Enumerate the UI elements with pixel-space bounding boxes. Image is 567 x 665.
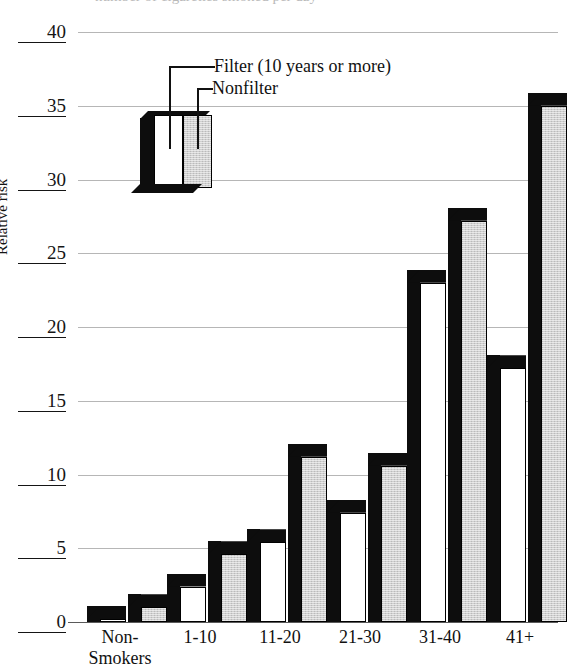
x-tick-label: 31-40	[395, 627, 485, 648]
bar-face-nonfilter	[301, 457, 327, 622]
bar-depth-filter	[327, 500, 340, 622]
cropped-title-text: number of cigarettes smoked per day	[95, 0, 425, 4]
y-tick-label: 10	[18, 465, 66, 486]
bar-group	[87, 32, 167, 622]
bar-nonfilter	[541, 106, 567, 622]
bar-filter	[340, 513, 366, 622]
bar-filter	[100, 619, 126, 622]
bar-face-filter	[420, 283, 446, 622]
bar-nonfilter	[141, 607, 167, 622]
bar-depth-nonfilter	[368, 453, 381, 622]
bar-face-filter	[100, 619, 126, 622]
bar-depth-nonfilter	[288, 444, 301, 622]
y-tick: 10	[78, 475, 79, 476]
y-tick: 25	[78, 253, 79, 254]
y-tick: 30	[78, 180, 79, 181]
bar-face-nonfilter	[381, 466, 407, 622]
bar-filter	[260, 542, 286, 622]
x-tick-label: 11-20	[235, 627, 325, 648]
x-tick-label: Non- Smokers	[75, 627, 165, 665]
bar-face-nonfilter	[221, 554, 247, 622]
bar-depth-nonfilter	[528, 93, 541, 622]
bar-nonfilter	[221, 554, 247, 622]
bar-depth-filter	[407, 270, 420, 622]
bar-nonfilter	[381, 466, 407, 622]
bar-nonfilter	[461, 221, 487, 622]
x-axis-line	[68, 622, 558, 623]
y-tick: 15	[78, 401, 79, 402]
y-tick-label: 0	[18, 612, 66, 633]
bar-group	[327, 32, 407, 622]
y-tick-label: 5	[18, 538, 66, 559]
bar-face-nonfilter	[141, 607, 167, 622]
bar-nonfilter	[301, 457, 327, 622]
y-tick-label: 20	[18, 317, 66, 338]
y-tick-label: 35	[18, 96, 66, 117]
y-tick-label: 30	[18, 170, 66, 191]
bar-face-filter	[340, 513, 366, 622]
plot-area: 0510152025303540 Non- Smokers1-1011-2021…	[78, 32, 558, 622]
bar-filter	[180, 587, 206, 622]
bar-filter	[420, 283, 446, 622]
cropped-title-sliver: number of cigarettes smoked per day	[95, 0, 425, 5]
bar-group	[487, 32, 567, 622]
bar-group	[407, 32, 487, 622]
y-tick: 20	[78, 327, 79, 328]
bar-filter	[500, 368, 526, 622]
y-tick: 40	[78, 32, 79, 33]
bar-group	[247, 32, 327, 622]
bar-face-filter	[180, 587, 206, 622]
y-tick-label: 25	[18, 243, 66, 264]
bar-depth-filter	[487, 355, 500, 622]
x-tick-label: 21-30	[315, 627, 405, 648]
bar-face-filter	[260, 542, 286, 622]
y-tick-label: 40	[18, 22, 66, 43]
y-tick: 35	[78, 106, 79, 107]
bar-depth-filter	[247, 529, 260, 622]
y-tick-label: 15	[18, 391, 66, 412]
x-tick-label: 1-10	[155, 627, 245, 648]
bar-face-nonfilter	[541, 106, 567, 622]
bar-face-filter	[500, 368, 526, 622]
bar-face-nonfilter	[461, 221, 487, 622]
x-tick-label: 41+	[475, 627, 565, 648]
bar-depth-nonfilter	[448, 208, 461, 622]
y-axis-title: Relative risk	[0, 179, 11, 255]
bar-group	[167, 32, 247, 622]
y-tick: 5	[78, 548, 79, 549]
